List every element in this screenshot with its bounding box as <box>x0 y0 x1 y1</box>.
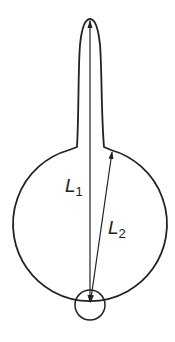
label-l2-subscript: 2 <box>119 226 126 241</box>
label-l2: L2 <box>108 218 126 240</box>
diagram-canvas <box>0 0 175 342</box>
label-l1-subscript: 1 <box>76 184 83 199</box>
label-l2-symbol: L <box>108 217 119 238</box>
label-l1: L1 <box>65 176 83 198</box>
flask-diagram: L1 L2 <box>0 0 175 342</box>
label-l1-symbol: L <box>65 175 76 196</box>
